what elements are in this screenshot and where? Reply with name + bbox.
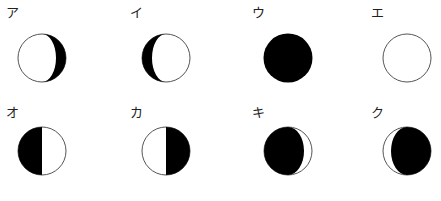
moon-full-icon	[365, 0, 441, 100]
panel-ka: カ	[124, 100, 234, 200]
panel-a: ア	[0, 0, 110, 100]
moon-new-icon	[246, 0, 356, 100]
moon-waxing-crescent-icon	[0, 0, 110, 100]
moon-half-right-dark-icon	[124, 100, 234, 201]
moon-thin-lit-left-icon	[365, 100, 441, 201]
moon-half-left-dark-icon	[0, 100, 110, 201]
moon-thin-lit-right-icon	[246, 100, 356, 201]
panel-e: エ	[365, 0, 441, 100]
panel-i: イ	[124, 0, 234, 100]
panel-o: オ	[0, 100, 110, 200]
panel-ku: ク	[365, 100, 441, 200]
moon-left-crescent-icon	[124, 0, 234, 100]
panel-u: ウ	[246, 0, 356, 100]
panel-ki: キ	[246, 100, 356, 200]
